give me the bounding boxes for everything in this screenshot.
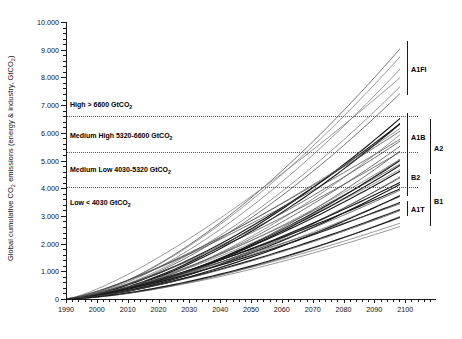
scenario-bracket-A1FI	[407, 41, 408, 95]
chart-canvas: Global cumulative CO2 emissions (energy …	[0, 0, 462, 339]
scenario-bracket-label-A1FI: A1FI	[411, 65, 427, 74]
scenario-bracket-B2	[407, 156, 408, 197]
scenario-bracket-A1T	[407, 201, 408, 215]
scenario-bracket-A2	[430, 119, 431, 174]
scenario-bracket-label-A1T: A1T	[411, 205, 425, 214]
scenario-bracket-label-A2: A2	[434, 144, 443, 153]
scenario-bracket-label-A1B: A1B	[411, 133, 425, 142]
scenario-bracket-label-B1: B1	[434, 197, 443, 206]
scenario-bracket-label-B2: B2	[411, 173, 420, 182]
scenario-brackets-group: A1FIA1BB2A1TA2B1	[0, 0, 462, 339]
scenario-bracket-B1	[430, 179, 431, 226]
